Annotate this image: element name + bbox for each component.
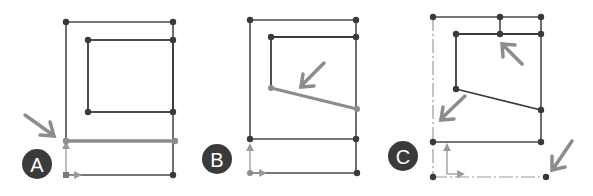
- inner-profile: [456, 34, 541, 110]
- panel-a: A: [22, 19, 178, 179]
- label-b: B: [210, 149, 223, 171]
- pointer-arrow-icon: [552, 141, 572, 170]
- label-a: A: [30, 154, 44, 176]
- pointer-arrow-icon: [301, 63, 324, 87]
- origin-axes: [66, 145, 78, 175]
- pointer-arrow-icon: [502, 44, 522, 64]
- label-c: C: [396, 146, 410, 168]
- sketch-diagram: A: [0, 0, 593, 196]
- outer-profile: [433, 17, 541, 142]
- panel-b: B: [202, 17, 360, 176]
- pointer-arrow-icon: [441, 96, 465, 120]
- inner-rectangle: [88, 40, 173, 112]
- outer-rectangle: [66, 22, 173, 175]
- origin-axes: [447, 147, 461, 174]
- pointer-arrow-icon: [25, 115, 54, 136]
- label-badge-c: C: [388, 141, 418, 171]
- inner-profile: [271, 37, 356, 88]
- panel-c: C: [388, 14, 572, 180]
- vertex-points: [63, 19, 178, 178]
- highlighted-slanted-line: [271, 88, 357, 109]
- label-badge-a: A: [22, 149, 52, 179]
- label-badge-b: B: [202, 144, 232, 174]
- origin-axes: [250, 147, 263, 173]
